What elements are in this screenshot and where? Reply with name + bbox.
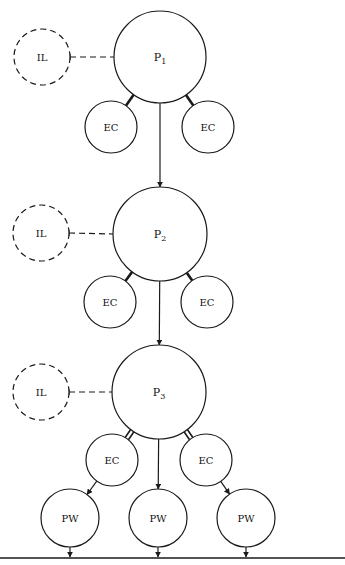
pw-node-2: PW bbox=[129, 489, 187, 547]
pw-node-3: PW bbox=[217, 489, 275, 547]
influence-node-3: IL bbox=[13, 364, 69, 420]
pw-node-2-label: PW bbox=[149, 513, 167, 524]
connections bbox=[0, 54, 345, 558]
output-arrow bbox=[87, 481, 97, 494]
influence-node-3-label: IL bbox=[36, 387, 47, 398]
tether-link bbox=[186, 95, 193, 106]
ec-node-3-1: EC bbox=[86, 434, 138, 486]
output-arrow bbox=[221, 481, 230, 494]
ec-node-1-1-label: EC bbox=[104, 122, 119, 133]
nodes: ILP1ECECILP2ECECILP3ECECPWPWPW bbox=[13, 11, 275, 547]
double-link bbox=[125, 430, 130, 438]
double-link bbox=[184, 432, 189, 440]
double-link bbox=[187, 430, 192, 438]
ec-node-1-1: EC bbox=[85, 101, 137, 153]
tether-link bbox=[187, 273, 192, 281]
influence-node-2-label: IL bbox=[36, 228, 47, 239]
tether-link bbox=[126, 95, 134, 106]
pw-node-1-label: PW bbox=[61, 513, 79, 524]
primary-node-1: P1 bbox=[114, 11, 206, 103]
ec-node-1-2-label: EC bbox=[201, 122, 216, 133]
pw-node-3-label: PW bbox=[237, 513, 255, 524]
ec-node-2-1-label: EC bbox=[103, 297, 118, 308]
ec-node-2-1: EC bbox=[84, 276, 136, 328]
ec-node-1-2: EC bbox=[182, 101, 234, 153]
pw-node-1: PW bbox=[41, 489, 99, 547]
influence-node-1-label: IL bbox=[37, 52, 48, 63]
ec-node-2-2: EC bbox=[181, 276, 233, 328]
tether-link bbox=[125, 272, 132, 281]
influence-node-2: IL bbox=[13, 205, 69, 261]
primary-node-2: P2 bbox=[113, 187, 207, 281]
diagram-canvas: ILP1ECECILP2ECECILP3ECECPWPWPW bbox=[0, 0, 345, 565]
primary-node-3: P3 bbox=[112, 345, 206, 439]
ec-node-3-2: EC bbox=[180, 434, 232, 486]
ec-node-2-2-label: EC bbox=[200, 297, 215, 308]
influence-node-1: IL bbox=[14, 29, 70, 85]
ec-node-3-2-label: EC bbox=[199, 455, 214, 466]
influence-link bbox=[69, 233, 113, 234]
ec-node-3-1-label: EC bbox=[105, 455, 120, 466]
double-link bbox=[128, 432, 133, 440]
process-diagram: ILP1ECECILP2ECECILP3ECECPWPWPW bbox=[0, 0, 345, 565]
